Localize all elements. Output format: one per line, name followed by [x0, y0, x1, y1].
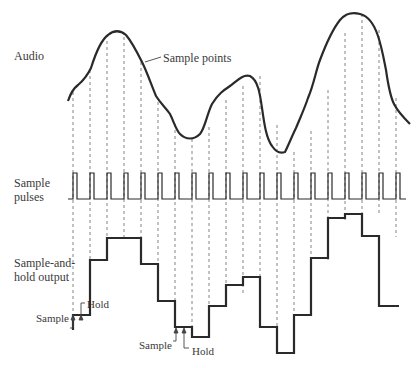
- audio-waveform: [68, 13, 410, 153]
- sample-points-leader: [145, 57, 161, 62]
- sample-and-hold-diagram: [0, 0, 416, 368]
- hold-arrow-2: [182, 328, 189, 348]
- hold-arrow-1: [79, 303, 85, 320]
- sample-guide-lines: [73, 14, 396, 353]
- sample-arrow-2: [173, 328, 178, 341]
- sample-and-hold-output: [73, 214, 399, 353]
- sample-pulse-train: [68, 173, 406, 199]
